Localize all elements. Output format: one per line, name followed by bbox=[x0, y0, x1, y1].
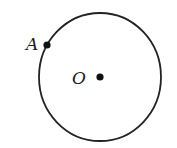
point-a-label: A bbox=[24, 34, 38, 54]
point-a-dot bbox=[43, 41, 50, 48]
center-o-label: O bbox=[72, 68, 86, 88]
center-o-dot bbox=[96, 73, 103, 80]
circle-diagram: A O bbox=[0, 0, 177, 148]
